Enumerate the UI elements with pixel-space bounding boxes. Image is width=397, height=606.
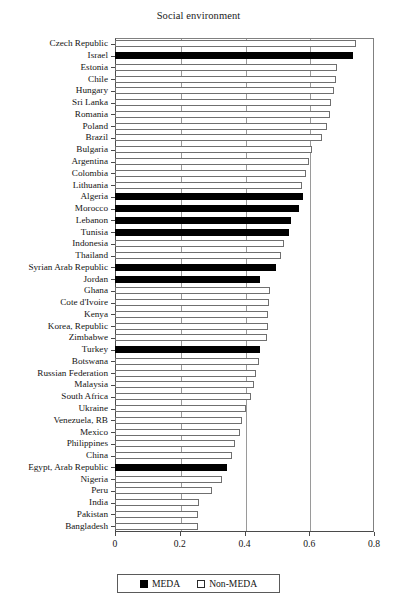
y-tick: [111, 420, 115, 421]
bar: [115, 287, 270, 294]
y-tick: [111, 467, 115, 468]
category-label: Syrian Arab Republic: [28, 262, 108, 272]
y-tick: [111, 303, 115, 304]
y-tick: [111, 291, 115, 292]
x-tick-label: 0: [95, 538, 135, 549]
bar: [115, 111, 330, 118]
x-tick-label: 0.8: [354, 538, 394, 549]
category-label: Ghana: [84, 285, 108, 295]
category-label: Romania: [75, 109, 108, 119]
category-label: Indonesia: [72, 238, 108, 248]
bar: [115, 205, 299, 212]
category-label: Algeria: [80, 191, 108, 201]
y-tick: [111, 503, 115, 504]
y-tick: [111, 256, 115, 257]
category-label: Botswana: [72, 356, 108, 366]
bar: [115, 193, 303, 200]
y-tick: [111, 397, 115, 398]
category-label: Hungary: [76, 85, 108, 95]
bar: [115, 99, 331, 106]
x-tick: [180, 532, 181, 536]
y-tick: [111, 314, 115, 315]
category-label: Poland: [82, 121, 108, 131]
category-label: Ukraine: [78, 403, 108, 413]
y-tick: [111, 114, 115, 115]
category-label: Venezuela, RB: [53, 415, 108, 425]
category-label: Bangladesh: [65, 521, 108, 531]
bar: [115, 358, 259, 365]
bar: [115, 452, 232, 459]
bar: [115, 170, 306, 177]
bar: [115, 158, 309, 165]
category-label: Philippines: [67, 438, 108, 448]
y-tick: [111, 56, 115, 57]
legend-entry: Non-MEDA: [197, 578, 257, 589]
category-label: Turkey: [82, 344, 108, 354]
y-tick: [111, 326, 115, 327]
category-label: Thailand: [75, 250, 108, 260]
category-label: Sri Lanka: [72, 97, 108, 107]
bar: [115, 264, 276, 271]
bar: [115, 511, 198, 518]
bar: [115, 370, 256, 377]
x-tick: [115, 532, 116, 536]
category-label: South Africa: [61, 391, 108, 401]
y-tick: [111, 103, 115, 104]
bar: [115, 299, 269, 306]
category-label: Korea, Republic: [48, 321, 108, 331]
y-tick: [111, 126, 115, 127]
category-label: Morocco: [75, 203, 108, 213]
bar: [115, 429, 240, 436]
y-tick: [111, 220, 115, 221]
y-tick: [111, 361, 115, 362]
category-label: Czech Republic: [50, 38, 108, 48]
category-label: Kenya: [84, 309, 108, 319]
bar: [115, 393, 251, 400]
y-tick: [111, 456, 115, 457]
category-label: Brazil: [86, 132, 108, 142]
bar: [115, 311, 268, 318]
category-label: Cote d'Ivoire: [60, 297, 108, 307]
legend-label: MEDA: [152, 578, 180, 589]
y-tick: [111, 150, 115, 151]
category-label: Chile: [88, 74, 108, 84]
bar: [115, 217, 291, 224]
x-tick-label: 0.4: [225, 538, 265, 549]
bar: [115, 405, 246, 412]
y-tick: [111, 432, 115, 433]
chart-figure: Social environment Czech RepublicIsraelE…: [0, 0, 397, 606]
x-tick-label: 0.6: [289, 538, 329, 549]
bar: [115, 334, 267, 341]
y-tick: [111, 44, 115, 45]
category-label: Malaysia: [74, 379, 108, 389]
bar: [115, 252, 281, 259]
chart-title: Social environment: [0, 10, 397, 21]
category-label: Mexico: [80, 427, 108, 437]
bar: [115, 87, 334, 94]
y-tick: [111, 526, 115, 527]
bar: [115, 40, 356, 47]
y-tick: [111, 279, 115, 280]
y-tick: [111, 267, 115, 268]
y-tick: [111, 514, 115, 515]
bar: [115, 276, 260, 283]
bar: [115, 323, 268, 330]
category-label: Israel: [88, 50, 108, 60]
bar: [115, 229, 289, 236]
category-label: Zimbabwe: [69, 332, 108, 342]
y-tick: [111, 444, 115, 445]
bar: [115, 499, 199, 506]
category-label: Nigeria: [80, 474, 108, 484]
bar: [115, 464, 227, 471]
legend-swatch-icon: [197, 580, 205, 588]
category-label: Estonia: [80, 62, 108, 72]
x-axis: 00.20.40.60.8: [0, 532, 397, 558]
bar: [115, 52, 353, 59]
x-tick: [374, 532, 375, 536]
category-label: Peru: [91, 485, 108, 495]
y-tick: [111, 479, 115, 480]
legend-label: Non-MEDA: [209, 578, 257, 589]
y-tick: [111, 350, 115, 351]
category-label: India: [89, 497, 108, 507]
legend-entry: MEDA: [140, 578, 180, 589]
